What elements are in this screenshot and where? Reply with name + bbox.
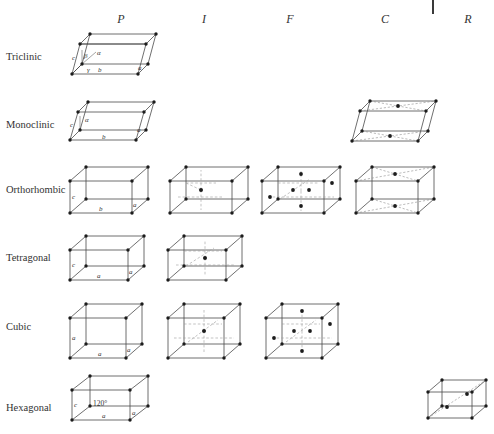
axis-label-c: c: [72, 261, 76, 269]
axis-label-a-2: a: [98, 350, 102, 358]
axis-label-a: a: [133, 201, 137, 209]
cell-monoclinic-p: c α b a: [66, 100, 158, 150]
cell-cubic-p: a a a: [66, 300, 146, 366]
face-center-node: [308, 329, 312, 333]
row-label-hexagonal: Hexagonal: [6, 402, 51, 413]
face-center-node: [388, 134, 392, 138]
axis-label-b: b: [99, 205, 103, 213]
angle-label-gamma: γ: [87, 66, 90, 74]
face-center-node: [272, 336, 276, 340]
cell-orthorhombic-c: [352, 165, 438, 221]
axis-label-a-1: a: [97, 272, 101, 280]
bravais-lattice-figure: P I F C R Triclinic Monoclinic Orthorhom…: [0, 0, 494, 434]
face-center-node: [393, 204, 397, 208]
rhombohedral-interior-node: [465, 392, 469, 396]
body-center-node: [202, 329, 206, 333]
face-center-node: [299, 172, 303, 176]
axis-label-a-1: a: [72, 334, 76, 342]
cell-triclinic-p: c β α γ b a: [66, 30, 158, 86]
cell-monoclinic-c: [348, 97, 440, 153]
rhombohedral-interior-node: [445, 405, 449, 409]
cell-orthorhombic-i: [166, 165, 252, 221]
face-center-node: [292, 329, 296, 333]
axis-label-b: b: [102, 133, 106, 141]
cell-hexagonal-r: [424, 378, 492, 430]
row-label-monoclinic: Monoclinic: [6, 119, 54, 130]
row-label-orthorhombic: Orthorhombic: [6, 184, 66, 195]
cell-cubic-f: [262, 300, 342, 366]
axis-label-a-3: a: [127, 346, 131, 354]
axis-label-a-1: a: [102, 412, 106, 420]
axis-label-b: b: [98, 66, 102, 74]
axis-label-c: c: [74, 401, 78, 409]
face-center-node: [396, 104, 400, 108]
cell-hexagonal-p: c 120° a a: [66, 374, 152, 428]
cell-tetragonal-i: [164, 234, 246, 288]
face-center-node: [291, 188, 295, 192]
column-header-r: R: [448, 12, 488, 27]
row-label-cubic: Cubic: [6, 321, 31, 332]
angle-label-alpha: α: [85, 116, 89, 124]
column-header-p: P: [101, 12, 141, 27]
column-divider-tick-icon: [432, 0, 434, 14]
face-center-node: [328, 322, 332, 326]
cell-tetragonal-p: c a a: [66, 234, 148, 288]
angle-label-beta: β: [83, 52, 88, 60]
angle-label-120: 120°: [93, 399, 107, 408]
cell-orthorhombic-f: [258, 165, 344, 221]
face-center-node: [300, 349, 304, 353]
row-label-triclinic: Triclinic: [6, 51, 42, 62]
cell-cubic-i: [164, 300, 244, 366]
axis-label-a: a: [138, 64, 142, 72]
face-center-node: [307, 188, 311, 192]
row-label-tetragonal: Tetragonal: [6, 252, 51, 263]
axis-label-a-2: a: [129, 268, 133, 276]
face-center-node: [299, 204, 303, 208]
column-header-c: C: [365, 12, 405, 27]
cell-orthorhombic-p: c b a: [66, 165, 152, 221]
axis-label-c: c: [72, 193, 76, 201]
body-center-node: [199, 188, 203, 192]
body-center-node: [203, 256, 207, 260]
angle-label-alpha: α: [97, 49, 101, 57]
axis-label-a: a: [137, 126, 141, 134]
face-center-node: [268, 195, 272, 199]
column-header-i: I: [184, 12, 224, 27]
face-center-node: [393, 172, 397, 176]
face-center-node: [300, 309, 304, 313]
column-header-f: F: [270, 12, 310, 27]
axis-label-a-2: a: [132, 409, 136, 417]
face-center-node: [330, 181, 334, 185]
